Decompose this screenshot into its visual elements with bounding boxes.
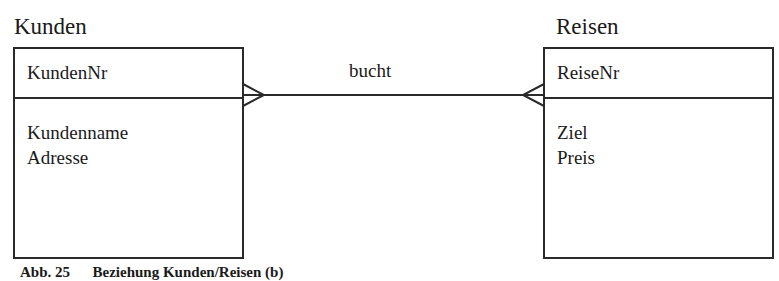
- figure-caption: Abb. 25 Beziehung Kunden/Reisen (b): [20, 264, 283, 281]
- relationship-label: bucht: [349, 60, 391, 82]
